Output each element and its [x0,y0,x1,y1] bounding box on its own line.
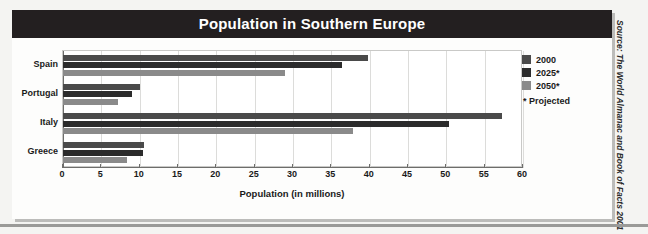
x-tick-label: 60 [517,169,527,179]
source-credit: Source: The World Almanac and Book of Fa… [615,20,625,220]
x-tick-label: 50 [440,169,450,179]
legend-note: * Projected [523,96,608,106]
gridline [408,51,409,168]
legend-item[interactable]: 2050* [522,80,608,91]
bar [63,84,140,90]
plot-area [62,50,522,167]
legend-label: 2050* [536,81,560,91]
tick-mark [522,164,523,168]
x-tick-label: 20 [210,169,220,179]
x-axis-title: Population (in millions) [62,188,522,199]
legend-swatch-icon [522,68,531,77]
category-label-spain: Spain [0,59,58,69]
legend-entries: 20002025*2050* [522,54,608,91]
tick-mark [177,164,178,168]
x-axis-ticks: 051015202530354045505560 [62,169,522,183]
category-label-italy: Italy [0,117,58,127]
tick-mark [484,164,485,168]
tick-mark [445,164,446,168]
gridline [331,51,332,168]
x-tick-label: 10 [134,169,144,179]
bar [63,91,132,97]
legend: 20002025*2050* * Projected [522,54,608,106]
bar [63,70,285,76]
tick-mark [215,164,216,168]
category-axis-labels: SpainPortugalItalyGreece [0,50,58,167]
tick-mark [62,164,63,168]
bar [63,150,143,156]
gridline [293,51,294,168]
x-tick-label: 45 [402,169,412,179]
tick-mark [100,164,101,168]
tick-mark [292,164,293,168]
x-tick-label: 55 [479,169,489,179]
title-banner: Population in Southern Europe [12,10,612,38]
x-tick-label: 15 [172,169,182,179]
gridline [485,51,486,168]
bar [63,128,353,134]
x-tick-label: 5 [98,169,103,179]
tick-mark [369,164,370,168]
legend-swatch-icon [522,55,531,64]
x-tick-label: 30 [287,169,297,179]
tick-mark [139,164,140,168]
bar [63,121,449,127]
category-label-portugal: Portugal [0,88,58,98]
bar [63,55,368,61]
bar [63,99,118,105]
x-tick-label: 0 [59,169,64,179]
x-tick-label: 40 [364,169,374,179]
bar [63,142,144,148]
x-tick-label: 25 [249,169,259,179]
bottom-rule [0,224,648,227]
x-tick-label: 35 [325,169,335,179]
chart-title: Population in Southern Europe [12,10,612,38]
category-label-greece: Greece [0,146,58,156]
bar [63,157,127,163]
tick-mark [254,164,255,168]
legend-item[interactable]: 2025* [522,67,608,78]
chart-figure: Population in Southern Europe SpainPortu… [0,0,648,234]
bar [63,113,502,119]
tick-mark [407,164,408,168]
legend-swatch-icon [522,81,531,90]
legend-label: 2000 [536,55,556,65]
gridline [370,51,371,168]
tick-mark [330,164,331,168]
legend-item[interactable]: 2000 [522,54,608,65]
gridline [446,51,447,168]
bar [63,62,342,68]
legend-label: 2025* [536,68,560,78]
